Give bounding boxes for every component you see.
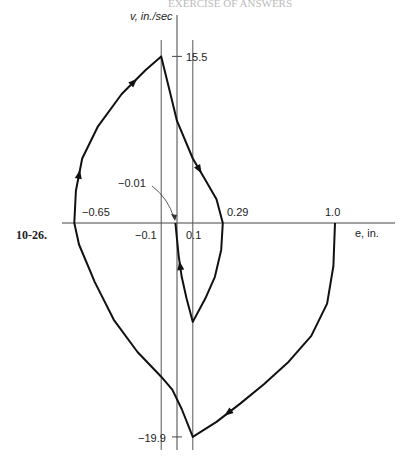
axes	[62, 15, 395, 450]
trajectory-line	[74, 56, 335, 437]
x-tick-label: 0.1	[186, 229, 201, 241]
y-tick-label: 15.5	[186, 51, 207, 63]
y-axis-label: v, in./sec	[130, 10, 173, 22]
annotation-label: −0.01	[118, 177, 146, 189]
y-tick-label: −19.9	[138, 432, 166, 444]
direction-arrow	[194, 164, 205, 175]
x-tick-label: −0.65	[82, 206, 110, 218]
annotation-leader	[152, 186, 174, 218]
x-tick-label: 0.29	[227, 206, 248, 218]
phase-plane-chart: EXERCISE OF ANSWERS v, in./sec e, in. −0…	[0, 0, 410, 459]
figure-number: 10-26.	[16, 228, 47, 242]
x-axis-label: e, in.	[355, 227, 379, 239]
x-tick-label: −0.1	[135, 229, 157, 241]
x-tick-label: 1.0	[325, 206, 340, 218]
annotation-arrowhead	[171, 214, 177, 221]
direction-arrows	[75, 76, 234, 418]
page-header: EXERCISE OF ANSWERS	[168, 0, 292, 9]
